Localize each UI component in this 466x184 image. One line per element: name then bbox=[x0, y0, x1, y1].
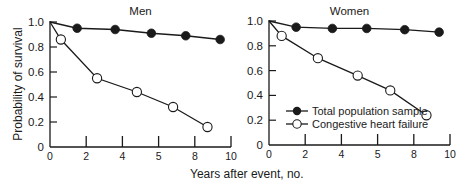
x-tick-label: 5 bbox=[375, 148, 381, 160]
open-data-point bbox=[203, 122, 212, 131]
x-tick-label: 2 bbox=[302, 148, 308, 160]
x-tick-label: 10 bbox=[225, 150, 237, 162]
filled-data-point bbox=[111, 25, 120, 34]
x-tick-label: 0 bbox=[47, 150, 53, 162]
x-tick-label: 10 bbox=[444, 148, 456, 160]
y-tick-label: 0.2 bbox=[247, 114, 263, 126]
open-circle-marker-icon bbox=[293, 120, 301, 128]
x-tick-label: 8 bbox=[192, 150, 198, 162]
x-tick-label: 4 bbox=[338, 148, 344, 160]
x-tick-label: 5 bbox=[156, 150, 162, 162]
legend: Total population sample Congestive heart… bbox=[286, 105, 428, 130]
legend-total-population: Total population sample bbox=[312, 105, 428, 117]
x-tick-label: 8 bbox=[411, 148, 417, 160]
open-data-point bbox=[386, 86, 395, 95]
x-tick-label: 4 bbox=[119, 150, 125, 162]
filled-data-point bbox=[328, 24, 337, 33]
open-data-point bbox=[56, 35, 65, 44]
filled-data-point bbox=[216, 35, 225, 44]
x-tick-label: 0 bbox=[266, 148, 272, 160]
y-tick-label: 0.4 bbox=[247, 89, 264, 101]
open-data-point bbox=[313, 54, 322, 63]
filled-data-point bbox=[362, 24, 371, 33]
legend-congestive-heart-failure: Congestive heart failure bbox=[312, 118, 428, 130]
y-tick-label: 1.0 bbox=[247, 15, 263, 27]
open-data-point bbox=[92, 74, 101, 83]
series-line bbox=[269, 21, 426, 115]
panel-title: Men bbox=[129, 5, 151, 17]
open-data-point bbox=[132, 87, 141, 96]
filled-data-point bbox=[147, 29, 156, 38]
open-data-point bbox=[277, 31, 286, 40]
y-tick-label: 0.6 bbox=[247, 65, 263, 77]
open-data-point bbox=[168, 102, 177, 111]
men-panel: 00.20.40.60.81.00245810Men bbox=[28, 5, 237, 162]
filled-data-point bbox=[73, 24, 82, 33]
y-tick-label: 0.8 bbox=[247, 40, 263, 52]
y-tick-label: 1.0 bbox=[28, 16, 44, 28]
filled-data-point bbox=[292, 23, 301, 32]
filled-data-point bbox=[400, 25, 409, 34]
survival-figure: 00.20.40.60.81.00245810Men 00.20.40.60.8… bbox=[0, 0, 466, 184]
filled-circle-marker-icon bbox=[293, 107, 301, 115]
y-axis-label: Probability of survival bbox=[11, 27, 25, 140]
women-panel: 00.20.40.60.81.00245810Women bbox=[247, 5, 456, 160]
survival-chart-svg: 00.20.40.60.81.00245810Men 00.20.40.60.8… bbox=[0, 0, 466, 184]
y-tick-label: 0.6 bbox=[28, 66, 44, 78]
filled-data-point bbox=[181, 31, 190, 40]
y-tick-label: 0 bbox=[257, 139, 263, 151]
y-tick-label: 0.8 bbox=[28, 41, 44, 53]
y-tick-label: 0 bbox=[38, 141, 44, 153]
y-tick-label: 0.2 bbox=[28, 116, 44, 128]
x-tick-label: 2 bbox=[83, 150, 89, 162]
y-tick-label: 0.4 bbox=[28, 91, 45, 103]
panel-title: Women bbox=[330, 5, 369, 17]
open-data-point bbox=[353, 71, 362, 80]
filled-data-point bbox=[435, 28, 444, 37]
x-axis-label: Years after event, no. bbox=[190, 167, 304, 181]
